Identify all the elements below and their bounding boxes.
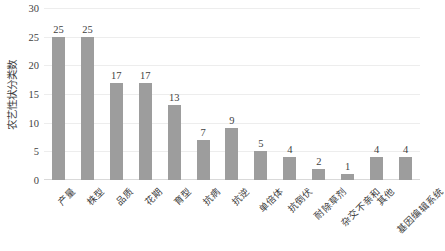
x-axis-ticks: 产量株型品质花期育型抗病抗逆单倍体抗倒伏耐除草剂杂交不亲和其他基因编辑系统 [44,182,420,250]
bar [312,169,325,180]
bar-slot: 2 [304,8,333,180]
bar [225,128,238,180]
bar-slot: 7 [189,8,218,180]
x-tick-slot: 株型 [73,182,102,250]
bar [139,83,152,180]
bar [283,157,296,180]
bar-slot: 1 [333,8,362,180]
x-tick-slot: 杂交不亲和 [333,182,362,250]
bar [341,174,354,180]
bar [168,105,181,180]
y-axis-title-label: 农艺性状分类数 [4,59,19,129]
bar-slot: 4 [391,8,420,180]
bar-value-label: 13 [169,92,180,103]
bar-value-label: 17 [140,70,151,81]
bar-slot: 4 [275,8,304,180]
x-tick-slot: 花期 [131,182,160,250]
y-tick-label: 20 [29,60,40,71]
y-tick-label: 10 [29,117,40,128]
bar-value-label: 4 [403,144,408,155]
bar [52,37,65,180]
x-tick-label: 基因编辑系统 [393,184,445,236]
y-tick-label: 0 [34,175,39,186]
bar-slot: 25 [44,8,73,180]
x-tick-slot: 抗逆 [218,182,247,250]
bar-value-label: 7 [200,127,205,138]
bar-value-label: 4 [374,144,379,155]
bar-slot: 5 [246,8,275,180]
bar-slot: 17 [131,8,160,180]
bar [197,140,210,180]
bar-value-label: 25 [82,24,93,35]
y-tick-label: 15 [29,89,40,100]
x-tick-slot: 抗病 [189,182,218,250]
bar-slot: 9 [218,8,247,180]
x-tick-slot: 基因编辑系统 [391,182,420,250]
bar [399,157,412,180]
x-tick-slot: 其他 [362,182,391,250]
y-tick-label: 30 [29,3,40,14]
bar-value-label: 4 [287,144,292,155]
bar-slot: 25 [73,8,102,180]
bar-value-label: 17 [111,70,122,81]
bar [254,151,267,180]
bar-value-label: 5 [258,138,263,149]
bar-slot: 17 [102,8,131,180]
bar [370,157,383,180]
y-tick-label: 25 [29,31,40,42]
bar-slot: 13 [160,8,189,180]
y-axis-ticks: 051015202530 [18,0,42,188]
bar-value-label: 2 [316,156,321,167]
y-tick-label: 5 [34,146,39,157]
bar-slot: 4 [362,8,391,180]
x-tick-slot: 品质 [102,182,131,250]
bar [110,83,123,180]
x-tick-slot: 单倍体 [246,182,275,250]
x-tick-slot: 耐除草剂 [304,182,333,250]
bar-value-label: 25 [53,24,64,35]
x-tick-slot: 产量 [44,182,73,250]
x-tick-slot: 抗倒伏 [275,182,304,250]
x-tick-slot: 育型 [160,182,189,250]
plot-area: 252517171379542144 [44,8,420,180]
bar-value-label: 9 [229,115,234,126]
bar-series: 252517171379542144 [44,8,420,180]
bar-value-label: 1 [345,161,350,172]
bar [81,37,94,180]
